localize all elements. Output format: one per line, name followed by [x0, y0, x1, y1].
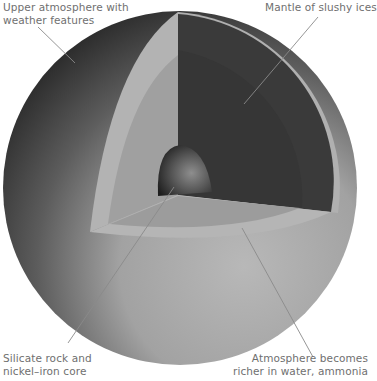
label-core-line2: nickel–iron core	[3, 365, 92, 378]
label-upper-atmosphere-line2: weather features	[3, 14, 129, 27]
label-deep-atmosphere: Atmosphere becomes richer in water, ammo…	[233, 352, 368, 378]
label-upper-atmosphere: Upper atmosphere with weather features	[3, 1, 129, 27]
label-upper-atmosphere-line1: Upper atmosphere with	[3, 1, 129, 14]
label-mantle-line1: Mantle of slushy ices	[265, 1, 377, 14]
label-mantle: Mantle of slushy ices	[265, 1, 377, 14]
label-deep-atmosphere-line2: richer in water, ammonia	[233, 365, 368, 378]
leader-line-upper-atmosphere	[38, 27, 75, 63]
label-core: Silicate rock and nickel–iron core	[3, 352, 92, 378]
label-core-line1: Silicate rock and	[3, 352, 92, 365]
label-deep-atmosphere-line1: Atmosphere becomes	[233, 352, 368, 365]
